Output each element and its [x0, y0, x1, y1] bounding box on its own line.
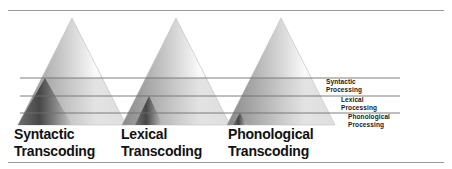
level-label-lexical-processing-line2: Processing	[341, 104, 377, 112]
column-label-phonological-transcoding-line2: Transcoding	[228, 143, 314, 160]
level-label-phonological-processing: Phonological Processing	[348, 113, 390, 130]
figure-root: Syntactic Processing Lexical Processing …	[0, 0, 452, 169]
level-label-phonological-processing-line2: Processing	[348, 121, 390, 129]
triangle-group-syntactic	[18, 18, 126, 125]
column-label-syntactic-transcoding: Syntactic Transcoding	[14, 126, 95, 159]
column-label-syntactic-transcoding-line1: Syntactic	[14, 126, 95, 143]
column-label-phonological-transcoding-line1: Phonological	[228, 126, 314, 143]
level-label-lexical-processing: Lexical Processing	[341, 96, 377, 113]
column-label-phonological-transcoding: Phonological Transcoding	[228, 126, 314, 159]
level-label-phonological-processing-line1: Phonological	[348, 113, 390, 121]
level-label-syntactic-processing-line1: Syntactic	[326, 78, 362, 86]
level-label-syntactic-processing: Syntactic Processing	[326, 78, 362, 95]
triangle-group-lexical	[122, 18, 230, 125]
level-label-lexical-processing-line1: Lexical	[341, 96, 377, 104]
level-label-syntactic-processing-line2: Processing	[326, 86, 362, 94]
column-label-syntactic-transcoding-line2: Transcoding	[14, 143, 95, 160]
column-label-lexical-transcoding-line2: Transcoding	[121, 143, 202, 160]
triangle-group-phonological	[227, 18, 335, 125]
column-label-lexical-transcoding-line1: Lexical	[121, 126, 202, 143]
column-label-lexical-transcoding: Lexical Transcoding	[121, 126, 202, 159]
